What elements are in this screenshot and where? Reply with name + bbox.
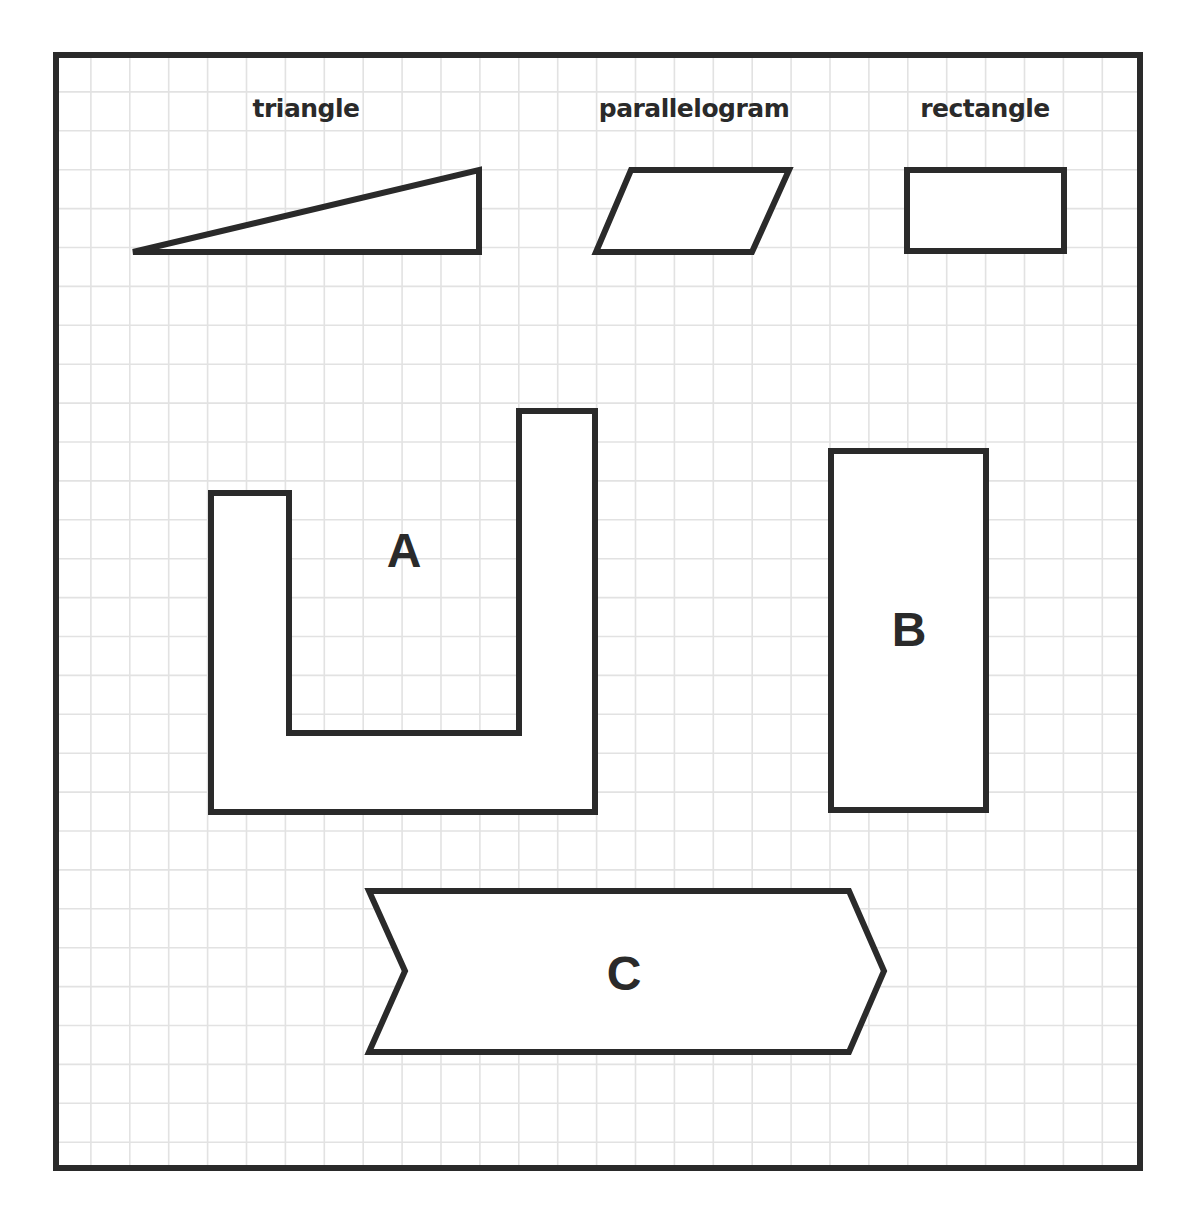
parallelogram-shape [596, 170, 789, 252]
parallelogram-label: parallelogram [599, 94, 789, 123]
rectangle-label: rectangle [920, 94, 1050, 123]
shapes-diagram: triangle parallelogram rectangle A B C [0, 0, 1188, 1213]
shape-c-label: C [607, 947, 642, 1000]
triangle-label: triangle [253, 94, 360, 123]
shape-a-label: A [387, 524, 422, 577]
shape-b-label: B [892, 603, 927, 656]
rectangle-shape [907, 170, 1064, 251]
